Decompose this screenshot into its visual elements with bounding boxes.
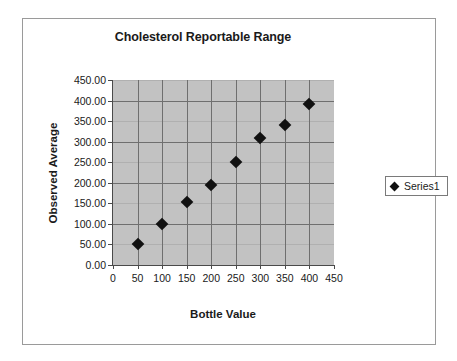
y-gridline <box>113 244 334 245</box>
x-axis-tick <box>138 265 139 269</box>
x-axis-tick <box>113 265 114 269</box>
x-axis-tick-label: 150 <box>178 272 196 284</box>
y-axis-tick <box>108 203 112 204</box>
x-axis-tick-label: 450 <box>325 272 343 284</box>
y-axis-tick <box>108 244 112 245</box>
x-axis-title: Bottle Value <box>112 308 334 320</box>
y-axis-tick-label: 300.00 <box>74 136 106 148</box>
data-point-marker <box>131 238 144 251</box>
y-axis-tick-label: 200.00 <box>74 177 106 189</box>
x-axis-tick <box>260 265 261 269</box>
y-axis-tick-label: 50.00 <box>80 238 106 250</box>
chart-title: Cholesterol Reportable Range <box>23 30 383 44</box>
y-gridline <box>113 80 334 81</box>
x-axis-tick-label: 400 <box>301 272 319 284</box>
y-axis-title-label: Observed Average <box>47 123 59 224</box>
x-axis-tick-label: 250 <box>227 272 245 284</box>
x-gridline <box>162 80 163 265</box>
y-axis-tick-label: 0.00 <box>86 259 106 271</box>
x-axis-tick <box>309 265 310 269</box>
y-axis-title: Observed Average <box>45 80 61 266</box>
x-axis-tick <box>334 265 335 269</box>
y-axis-tick <box>108 121 112 122</box>
y-axis-tick-label: 100.00 <box>74 218 106 230</box>
x-gridline <box>236 80 237 265</box>
y-gridline <box>113 203 334 204</box>
chart-frame: Cholesterol Reportable Range Observed Av… <box>22 18 436 345</box>
y-axis-tick-label: 250.00 <box>74 156 106 168</box>
y-axis-tick <box>108 142 112 143</box>
y-gridline <box>113 224 334 225</box>
chart-page: Cholesterol Reportable Range Observed Av… <box>0 0 457 361</box>
y-axis-tick <box>108 162 112 163</box>
y-axis-tick <box>108 265 112 266</box>
x-axis-tick-label: 100 <box>153 272 171 284</box>
y-gridline <box>113 121 334 122</box>
y-axis-tick <box>108 101 112 102</box>
x-axis-tick-label: 200 <box>202 272 220 284</box>
x-gridline <box>285 80 286 265</box>
data-point-marker <box>180 196 193 209</box>
y-axis-tick <box>108 224 112 225</box>
x-axis-tick-label: 350 <box>276 272 294 284</box>
y-gridline <box>113 183 334 184</box>
chart-legend: Series1 <box>385 176 448 196</box>
legend-entry-label: Series1 <box>404 180 440 192</box>
x-axis-tick-label: 0 <box>110 272 116 284</box>
x-gridline <box>211 80 212 265</box>
plot-area: 0.0050.00100.00150.00200.00250.00300.003… <box>112 80 334 266</box>
x-axis-tick <box>211 265 212 269</box>
y-axis-tick-label: 350.00 <box>74 115 106 127</box>
data-point-marker <box>205 178 218 191</box>
x-axis-tick <box>236 265 237 269</box>
y-axis-tick-label: 450.00 <box>74 74 106 86</box>
x-axis-tick-label: 300 <box>252 272 270 284</box>
y-axis-tick-label: 400.00 <box>74 95 106 107</box>
x-axis-tick <box>187 265 188 269</box>
x-axis-tick <box>162 265 163 269</box>
y-gridline <box>113 142 334 143</box>
y-axis-tick <box>108 183 112 184</box>
data-point-marker <box>156 218 169 231</box>
y-gridline <box>113 101 334 102</box>
x-gridline <box>187 80 188 265</box>
y-gridline <box>113 162 334 163</box>
data-point-marker <box>229 155 242 168</box>
diamond-marker-icon <box>390 181 400 191</box>
x-axis-tick <box>285 265 286 269</box>
y-axis-tick <box>108 80 112 81</box>
y-axis-tick-label: 150.00 <box>74 197 106 209</box>
x-gridline <box>260 80 261 265</box>
x-axis-tick-label: 50 <box>132 272 144 284</box>
